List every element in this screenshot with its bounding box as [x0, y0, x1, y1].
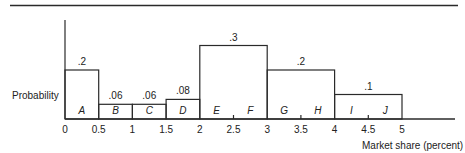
- x-tick-label: 3: [264, 125, 270, 135]
- bar-ef: [200, 46, 267, 120]
- x-tick-label: 4.5: [361, 125, 375, 135]
- bar-value-label: .06: [109, 91, 123, 101]
- x-axis-title: Market share (percent): [362, 141, 463, 151]
- x-tick-label: 0.5: [92, 125, 106, 135]
- segment-label-j: J: [383, 106, 388, 116]
- segment-label-a: A: [79, 106, 86, 116]
- segment-label-b: B: [112, 106, 119, 116]
- x-tick-label: 3.5: [294, 125, 308, 135]
- bar-gh: [267, 70, 334, 119]
- segment-label-f: F: [247, 106, 253, 116]
- x-tick-label: 2: [197, 125, 203, 135]
- segment-label-c: C: [146, 106, 153, 116]
- segment-label-h: H: [314, 106, 321, 116]
- x-tick-label: 4: [332, 125, 338, 135]
- bar-value-label: .06: [142, 91, 156, 101]
- x-tick-label: 1: [130, 125, 136, 135]
- bar-value-label: .1: [364, 82, 372, 92]
- segment-label-g: G: [280, 106, 288, 116]
- bar-value-label: .08: [176, 86, 190, 96]
- y-axis-title: Probability: [12, 91, 59, 101]
- segment-label-i: I: [350, 106, 353, 116]
- segment-label-d: D: [179, 106, 186, 116]
- bar-value-label: .2: [78, 57, 86, 67]
- segment-label-e: E: [213, 106, 220, 116]
- x-tick-label: 2.5: [227, 125, 241, 135]
- x-tick-label: 0: [62, 125, 68, 135]
- x-tick-label: 1.5: [159, 125, 173, 135]
- bar-value-label: .3: [229, 33, 237, 43]
- bar-value-label: .2: [297, 57, 305, 67]
- x-tick-label: 5: [399, 125, 405, 135]
